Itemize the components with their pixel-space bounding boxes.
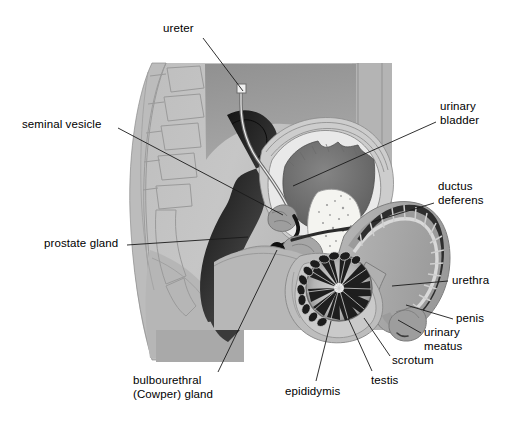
label-epididymis: epididymis (285, 385, 340, 399)
label-penis: penis (456, 312, 484, 326)
label-urinary-bladder-line-1: urinary (440, 100, 479, 114)
label-testis: testis (371, 374, 398, 388)
label-urinary-meatus: urinarymeatus (424, 326, 462, 353)
label-urinary-meatus-line-2: meatus (424, 340, 462, 354)
label-bulbourethral-cowper-gland-line-2: (Cowper) gland (133, 388, 213, 402)
label-bulbourethral-cowper-gland: bulbourethral(Cowper) gland (133, 374, 213, 401)
label-ductus-deferens-line-2: deferens (438, 194, 484, 208)
label-ureter-line-1: ureter (163, 22, 194, 36)
label-ductus-deferens-line-1: ductus (438, 180, 484, 194)
anatomy-illustration (0, 0, 511, 423)
label-seminal-vesicle-line-1: seminal vesicle (22, 118, 101, 132)
label-ureter: ureter (163, 22, 194, 36)
label-seminal-vesicle: seminal vesicle (22, 118, 101, 132)
label-scrotum-line-1: scrotum (392, 354, 434, 368)
label-urinary-meatus-line-1: urinary (424, 326, 462, 340)
label-ductus-deferens: ductusdeferens (438, 180, 484, 207)
label-epididymis-line-1: epididymis (285, 385, 340, 399)
anatomy-figure: ureterseminal vesicleurinarybladderductu… (0, 0, 511, 423)
label-urethra-line-1: urethra (452, 274, 489, 288)
label-penis-line-1: penis (456, 312, 484, 326)
label-bulbourethral-cowper-gland-line-1: bulbourethral (133, 374, 213, 388)
label-prostate-gland-line-1: prostate gland (44, 237, 118, 251)
label-urinary-bladder-line-2: bladder (440, 114, 479, 128)
label-scrotum: scrotum (392, 354, 434, 368)
label-testis-line-1: testis (371, 374, 398, 388)
label-prostate-gland: prostate gland (44, 237, 118, 251)
label-urinary-bladder: urinarybladder (440, 100, 479, 127)
label-urethra: urethra (452, 274, 489, 288)
